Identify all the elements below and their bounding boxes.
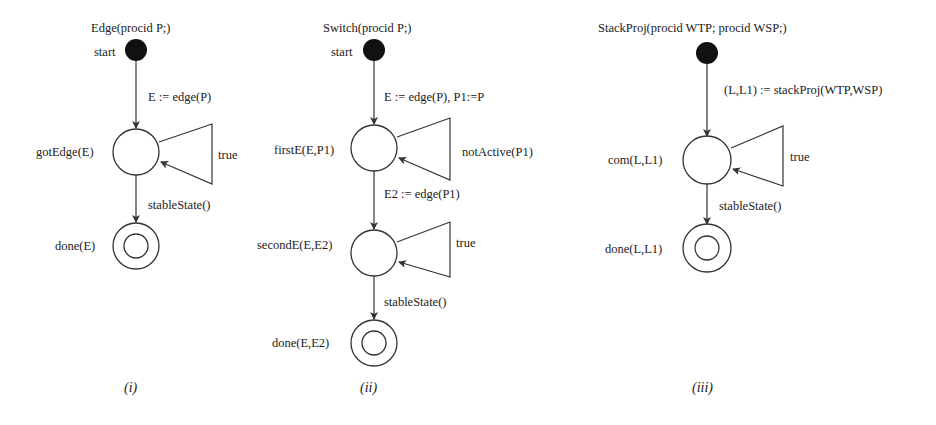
state-node-firste [351,125,397,171]
start-node-icon [363,39,385,61]
state-label: gotEdge(E) [36,145,94,159]
transition-label: true [218,148,238,162]
state-node-gotedge [113,129,159,175]
state-label: done(E) [55,239,95,253]
final-state-inner-icon [124,234,148,258]
state-label: firstE(E,P1) [274,143,334,157]
transition-label: E := edge(P), P1:=P [384,90,484,104]
state-machine-figure: Edge(procid P;) start E := edge(P) gotEd… [0,0,936,425]
transition-label: true [790,150,810,164]
figure-caption: (iii) [692,380,713,396]
self-loop-arrow [397,222,450,277]
figure-caption: (ii) [360,380,377,396]
state-node-seconde [351,230,397,276]
diagram-title: StackProj(procid WTP; procid WSP;) [598,21,787,35]
diagram-title: Switch(procid P;) [323,21,412,35]
state-label: secondE(E,E2) [257,238,332,252]
transition-label: notActive(P1) [462,145,533,159]
state-label: com(L,L1) [608,153,663,167]
self-loop-arrow [159,124,212,184]
diagram-stackproj: StackProj(procid WTP; procid WSP;) (L,L1… [598,21,882,396]
start-label: start [94,45,116,59]
state-node-com [683,136,731,184]
transition-label: stableState() [148,198,210,212]
diagram-title: Edge(procid P;) [91,21,171,35]
diagram-switch: Switch(procid P;) start E := edge(P), P1… [257,21,533,396]
transition-label: true [456,236,476,250]
transition-label: stableState() [719,199,781,213]
final-state-inner-icon [362,331,386,355]
start-label: start [331,45,353,59]
start-node-icon [696,42,718,64]
transition-label: stableState() [384,295,446,309]
start-node-icon [125,39,147,61]
self-loop-arrow [731,126,783,186]
diagram-edge: Edge(procid P;) start E := edge(P) gotEd… [36,21,238,396]
transition-label: E2 := edge(P1) [384,187,460,201]
self-loop-arrow [397,118,450,180]
transition-label: E := edge(P) [148,90,211,104]
state-label: done(E,E2) [272,336,329,350]
figure-caption: (i) [124,380,138,396]
state-label: done(L,L1) [605,242,662,256]
transition-label: (L,L1) := stackProj(WTP,WSP) [724,83,882,97]
final-state-inner-icon [695,236,719,260]
